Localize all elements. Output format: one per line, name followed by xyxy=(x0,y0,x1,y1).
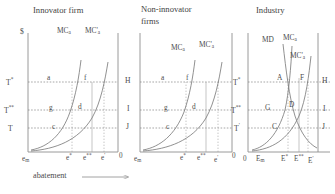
x-tick-Em-industry: Em xyxy=(256,156,264,163)
x-tick-edoublestar-noninnovator: e** xyxy=(197,153,206,163)
curve-label-mcprime-a-noninnovator: MC'a xyxy=(199,41,214,49)
y-label-tprime-industry: T' xyxy=(234,123,240,132)
point-label-c-noninnovator: c xyxy=(166,123,169,130)
x-tick-em-innovator: em xyxy=(22,156,29,163)
point-label-f-noninnovator: f xyxy=(186,74,188,81)
x-tick-Estar-industry: E* xyxy=(281,154,288,164)
curve-mcprime-a-innovator xyxy=(31,62,108,151)
point-label-g-innovator: g xyxy=(49,104,53,111)
point-label-d-innovator: d xyxy=(78,103,82,110)
panel-innovator-dashed-lines xyxy=(28,82,118,152)
x-tick-zero-industry: 0 xyxy=(243,156,247,163)
curve-mca-innovator xyxy=(31,60,81,150)
y-label-h-noninnovator: H xyxy=(125,77,130,85)
curve-label-mca-industry: MCa xyxy=(283,34,297,42)
point-label-g-noninnovator: g xyxy=(164,104,168,111)
curve-label-mca-innovator: MCa xyxy=(57,27,71,35)
y-label-tstar-innovator: T* xyxy=(6,77,13,86)
point-label-G-industry: G xyxy=(265,104,270,111)
abatement-axis-label: abatement xyxy=(33,172,67,180)
x-tick-em-noninnovator: em xyxy=(134,156,141,163)
curve-mcprime-a-noninnovator xyxy=(143,62,222,151)
panel-title-noninnovator-line1: Non-innovator xyxy=(141,5,192,14)
panel-innovator-curves xyxy=(31,60,108,151)
point-label-C-industry: C xyxy=(272,123,277,130)
x-tick-zero-innovator: 0 xyxy=(119,153,123,160)
x-tick-zero-noninnovator: 0 xyxy=(232,153,236,160)
panel-innovator-axes xyxy=(28,33,118,152)
y-label-i-industry: I xyxy=(323,105,326,113)
economics-figure: Innovator firm $ MCa MC'a T* T** T a f g… xyxy=(0,0,335,194)
panel-noninnovator-dashed-lines xyxy=(140,82,232,152)
point-label-d-noninnovator: d xyxy=(192,103,196,110)
x-tick-Eprime-industry: E' xyxy=(308,156,313,166)
point-label-c-innovator: c xyxy=(52,123,55,130)
panel-noninnovator-curves xyxy=(143,60,222,151)
x-tick-estar-innovator: e* xyxy=(66,153,72,163)
y-label-i-noninnovator: I xyxy=(127,105,130,113)
y-axis-currency-label: $ xyxy=(20,28,24,36)
panel-industry-axes xyxy=(248,33,330,152)
curve-label-mcprime-a-industry: MC'a xyxy=(290,52,305,60)
y-label-tdoublestar-industry: T** xyxy=(231,105,241,114)
point-label-a-noninnovator: a xyxy=(161,74,164,81)
panel-title-industry: Industry xyxy=(256,6,285,15)
point-label-a-innovator: a xyxy=(47,74,50,81)
point-label-A-industry: A xyxy=(277,74,282,81)
curve-label-md-industry: MD xyxy=(262,36,274,43)
panel-industry-curves xyxy=(252,44,317,151)
x-tick-Edoublestar-industry: E** xyxy=(294,154,304,164)
x-tick-estar-noninnovator: e* xyxy=(180,153,186,163)
panel-title-innovator: Innovator firm xyxy=(33,6,83,15)
point-label-F-industry: F xyxy=(300,74,304,81)
curve-mcprime-a-industry xyxy=(252,56,311,151)
x-tick-eprime-noninnovator: e' xyxy=(214,155,218,165)
y-label-h-industry: H xyxy=(322,77,327,85)
point-label-D-industry: D xyxy=(289,101,294,108)
y-label-j-noninnovator: J xyxy=(126,123,129,131)
y-label-t-innovator: T xyxy=(8,123,13,132)
y-label-tdoublestar-innovator: T** xyxy=(4,105,14,114)
x-tick-edoublestar-innovator: e** xyxy=(83,153,92,163)
panel-noninnovator-axes xyxy=(140,33,232,152)
y-label-j-industry: J xyxy=(322,123,325,131)
curve-mca-industry xyxy=(252,46,292,150)
curve-label-mca-noninnovator: MCa xyxy=(171,44,185,52)
y-label-tstar-industry: T* xyxy=(233,77,240,86)
panel-title-noninnovator-line2: firms xyxy=(141,17,159,26)
x-tick-eprime-innovator: e' xyxy=(101,153,105,163)
point-label-f-innovator: f xyxy=(84,74,86,81)
curve-label-mcprime-a-innovator: MC'a xyxy=(85,27,100,35)
figure-vector-layer xyxy=(0,0,335,194)
